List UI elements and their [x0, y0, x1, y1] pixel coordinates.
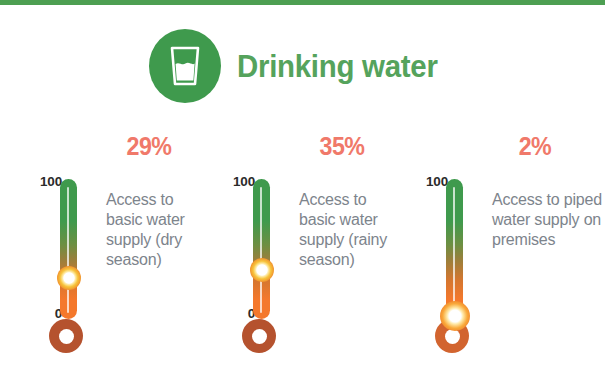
scale-max-label: 100 [221, 174, 255, 189]
gauge-columns: 29% 100 0 Access to basic water supply (… [0, 132, 605, 347]
bulb-hole [252, 329, 267, 344]
gauge-value-marker [57, 266, 81, 290]
thermometer-gauge: 100 0 [420, 176, 484, 336]
scale-min-label: 0 [28, 306, 62, 321]
tube-highlight [453, 187, 455, 313]
percent-value: 2% [484, 132, 586, 161]
gauge-bulb [242, 319, 276, 353]
gauge-column: 2% 100 0 Access to piped water supply on… [400, 132, 590, 347]
percent-value: 29% [98, 132, 200, 161]
scale-min-label: 0 [221, 306, 255, 321]
tube-highlight [67, 187, 69, 313]
gauge-bulb [49, 319, 83, 353]
drinking-glass-icon [149, 29, 221, 103]
tube-highlight [260, 187, 262, 313]
bulb-hole [59, 329, 74, 344]
gauge-tube [60, 179, 77, 319]
gauge-tube [253, 179, 270, 319]
gauge-column: 29% 100 0 Access to basic water supply (… [14, 132, 204, 347]
gauge-caption: Access to piped water supply on premises [492, 190, 604, 250]
thermometer-gauge: 100 0 [34, 176, 98, 336]
gauge-tube [446, 179, 463, 319]
page-title: Drinking water [237, 48, 438, 85]
gauge-caption: Access to basic water supply (dry season… [106, 190, 208, 270]
top-accent-rule [0, 0, 605, 5]
gauge-caption: Access to basic water supply (rainy seas… [299, 190, 401, 270]
panel-header: Drinking water [0, 26, 605, 106]
gauge-column: 35% 100 0 Access to basic water supply (… [207, 132, 397, 347]
percent-value: 35% [291, 132, 393, 161]
gauge-value-marker [440, 301, 470, 331]
gauge-value-marker [250, 258, 274, 282]
scale-max-label: 100 [28, 174, 62, 189]
scale-max-label: 100 [414, 174, 448, 189]
thermometer-gauge: 100 0 [227, 176, 291, 336]
